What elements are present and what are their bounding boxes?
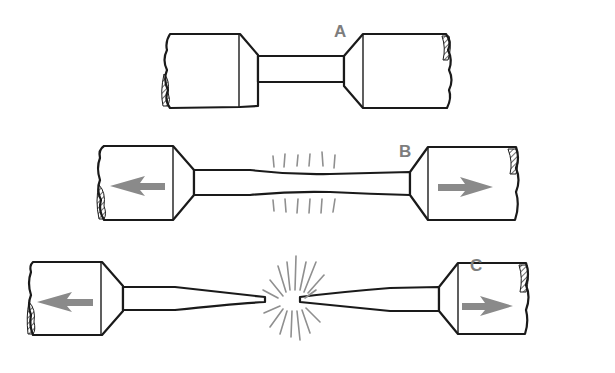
specimen-a: [162, 34, 452, 108]
tensile-test-diagram: [0, 0, 615, 373]
stage-label-b: B: [399, 142, 411, 162]
stage-label-a: A: [334, 22, 346, 42]
stage-label-c: C: [470, 256, 482, 276]
specimen-b: [97, 146, 519, 220]
specimen-c: [27, 256, 528, 340]
